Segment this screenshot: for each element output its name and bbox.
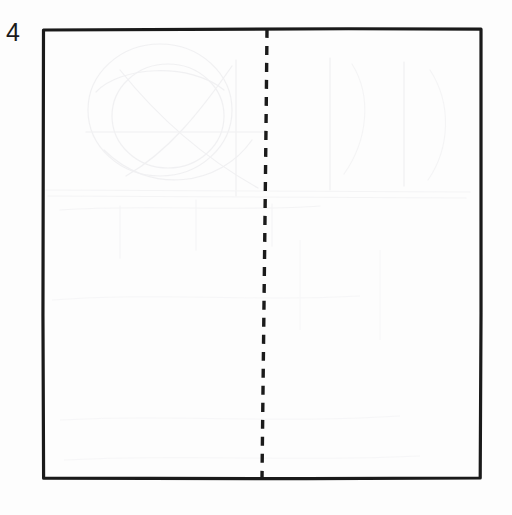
geometry-drawing <box>0 0 512 515</box>
line-of-symmetry <box>262 29 267 479</box>
figure-canvas: 4 <box>0 0 512 515</box>
figure-number-label: 4 <box>6 20 20 45</box>
